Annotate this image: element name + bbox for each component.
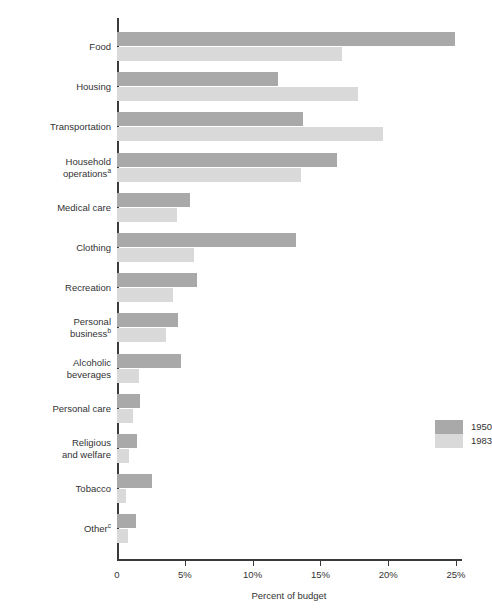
bar-1950	[117, 394, 140, 408]
bar-row: Housing	[117, 72, 461, 102]
bar-1950	[117, 273, 197, 287]
category-label: Medical care	[1, 202, 111, 214]
bar-1983	[117, 288, 173, 302]
category-label: Clothing	[1, 242, 111, 254]
x-tick-label: 20%	[379, 569, 398, 580]
bar-row: Religiousand welfare	[117, 434, 461, 464]
bar-1983	[117, 369, 139, 383]
x-tick	[320, 559, 321, 566]
x-axis-line	[117, 559, 462, 561]
category-label: Personalbusinessb	[1, 316, 111, 340]
bar-1950	[117, 32, 455, 46]
x-tick	[185, 559, 186, 566]
bar-1983	[117, 127, 383, 141]
category-label: Recreation	[1, 282, 111, 294]
bar-row: Otherc	[117, 514, 461, 544]
bar-row: Transportation	[117, 112, 461, 142]
x-tick	[388, 559, 389, 566]
category-label: Religiousand welfare	[1, 437, 111, 461]
bar-1950	[117, 233, 296, 247]
bar-1983	[117, 47, 342, 61]
bar-1983	[117, 449, 129, 463]
plot-area: FoodHousingTransportationHouseholdoperat…	[117, 18, 461, 559]
bar-row: Medical care	[117, 193, 461, 223]
x-tick-label: 0	[114, 569, 119, 580]
bar-row: Householdoperationsa	[117, 153, 461, 183]
x-tick-label: 10%	[243, 569, 262, 580]
bar-row: Food	[117, 32, 461, 62]
bar-1950	[117, 354, 181, 368]
x-tick	[456, 559, 457, 566]
category-label: Personal care	[1, 403, 111, 415]
category-label: Householdoperationsa	[1, 156, 111, 180]
bar-1950	[117, 112, 303, 126]
bar-1983	[117, 529, 128, 543]
category-label: Food	[1, 41, 111, 53]
legend-swatch-1983	[435, 434, 463, 448]
legend-label-1983: 1983	[471, 435, 492, 446]
bar-1983	[117, 489, 126, 503]
category-label: Housing	[1, 81, 111, 93]
bar-row: Personalbusinessb	[117, 313, 461, 343]
x-tick-label: 15%	[311, 569, 330, 580]
x-tick-label: 25%	[446, 569, 465, 580]
bar-1950	[117, 72, 278, 86]
bar-1950	[117, 153, 337, 167]
x-axis-title: Percent of budget	[117, 590, 461, 601]
bar-row: Clothing	[117, 233, 461, 263]
footnote-marker: a	[107, 166, 111, 173]
category-label: Otherc	[1, 523, 111, 535]
bar-row: Tobacco	[117, 474, 461, 504]
legend-label-1950: 1950	[471, 421, 492, 432]
category-label: Alcoholicbeverages	[1, 357, 111, 381]
bar-1983	[117, 87, 358, 101]
bar-1983	[117, 208, 177, 222]
bar-1950	[117, 434, 137, 448]
category-label: Tobacco	[1, 483, 111, 495]
bar-row: Personal care	[117, 394, 461, 424]
bar-1950	[117, 313, 178, 327]
x-tick-label: 5%	[178, 569, 192, 580]
bar-1983	[117, 409, 133, 423]
legend-swatch-1950	[435, 420, 463, 434]
bar-row: Recreation	[117, 273, 461, 303]
footnote-marker: c	[108, 522, 111, 529]
bar-row: Alcoholicbeverages	[117, 354, 461, 384]
bar-1983	[117, 248, 194, 262]
category-label: Transportation	[1, 121, 111, 133]
bar-1950	[117, 514, 136, 528]
bar-1950	[117, 474, 152, 488]
bar-1983	[117, 328, 166, 342]
bar-1983	[117, 168, 301, 182]
footnote-marker: b	[107, 327, 111, 334]
x-tick	[253, 559, 254, 566]
bar-1950	[117, 193, 190, 207]
